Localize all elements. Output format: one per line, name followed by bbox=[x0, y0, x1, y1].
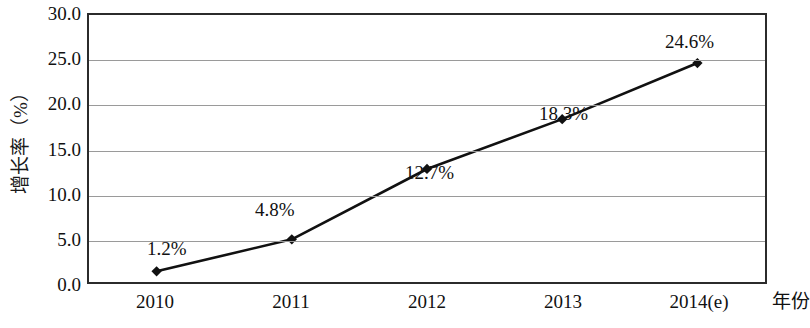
x-axis-tick-label: 2014(e) bbox=[669, 292, 728, 311]
data-point-marker bbox=[287, 234, 297, 244]
data-point-label: 18.3% bbox=[539, 104, 588, 123]
y-axis-tick-label: 25.0 bbox=[21, 49, 81, 68]
x-axis-tick-label: 2012 bbox=[408, 292, 446, 311]
x-axis-tick-label: 2010 bbox=[136, 292, 174, 311]
y-axis-tick-label: 5.0 bbox=[21, 230, 81, 249]
gridline bbox=[89, 196, 765, 197]
gridline bbox=[89, 60, 765, 61]
y-axis-tick-label: 0.0 bbox=[21, 275, 81, 294]
data-point-marker bbox=[151, 266, 161, 276]
x-axis-title: 年份 bbox=[772, 292, 810, 311]
gridline bbox=[89, 151, 765, 152]
plot-area bbox=[87, 13, 767, 284]
data-point-label: 1.2% bbox=[147, 239, 187, 258]
x-axis-tick-label: 2013 bbox=[544, 292, 582, 311]
data-point-label: 24.6% bbox=[665, 32, 714, 51]
y-axis-tick-label: 20.0 bbox=[21, 94, 81, 113]
gridline bbox=[89, 241, 765, 242]
x-axis-tick-label: 2011 bbox=[272, 292, 309, 311]
y-axis-tick-label: 30.0 bbox=[21, 4, 81, 23]
x-axis-tick-labels: 20102011201220132014(e) bbox=[87, 292, 767, 322]
data-point-label: 12.7% bbox=[405, 163, 454, 182]
y-axis-tick-labels: 30.025.020.015.010.05.00.0 bbox=[19, 0, 81, 328]
y-axis-tick-label: 10.0 bbox=[21, 185, 81, 204]
series-line-growth-rate bbox=[89, 15, 765, 282]
y-axis-tick-label: 15.0 bbox=[21, 140, 81, 159]
gridline bbox=[89, 105, 765, 106]
data-point-label: 4.8% bbox=[255, 200, 295, 219]
